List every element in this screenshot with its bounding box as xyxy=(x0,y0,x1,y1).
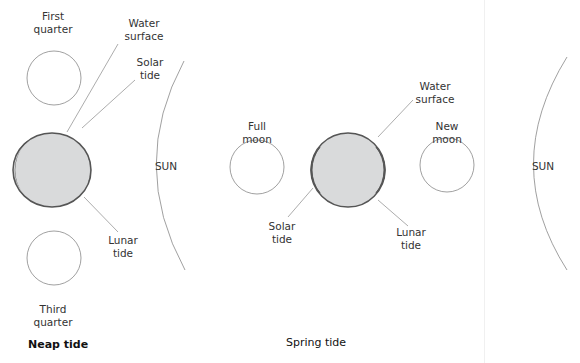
spring-lunar-tide-leader xyxy=(378,200,408,226)
label-first-quarter: First quarter xyxy=(20,10,86,36)
label-full-moon: Full moon xyxy=(235,120,279,146)
new-moon xyxy=(420,138,474,192)
label-neap-water-surface: Water surface xyxy=(114,17,174,43)
label-neap-lunar-tide: Lunar tide xyxy=(101,234,145,260)
label-neap-solar-tide: Solar tide xyxy=(128,56,172,82)
label-spring-lunar-tide: Lunar tide xyxy=(389,226,433,252)
label-third-quarter: Third quarter xyxy=(20,303,86,329)
spring-tide-title: Spring tide xyxy=(286,336,346,349)
neap-solar-tide-leader xyxy=(82,80,135,128)
full-moon xyxy=(230,140,284,194)
neap-lunar-tide-leader xyxy=(84,197,118,232)
label-neap-sun: SUN xyxy=(151,160,181,173)
spring-earth xyxy=(311,133,385,207)
label-spring-sun: SUN xyxy=(528,160,558,173)
label-spring-water-surface: Water surface xyxy=(405,80,465,106)
tide-diagram-canvas xyxy=(0,0,580,363)
label-new-moon: New moon xyxy=(425,120,469,146)
panel-divider xyxy=(484,0,485,363)
spring-solar-tide-leader xyxy=(288,188,313,217)
first-quarter-moon xyxy=(27,51,81,105)
neap-earth xyxy=(13,133,91,207)
label-spring-solar-tide: Solar tide xyxy=(260,220,304,246)
neap-tide-title: Neap tide xyxy=(28,338,88,351)
third-quarter-moon xyxy=(27,231,81,285)
